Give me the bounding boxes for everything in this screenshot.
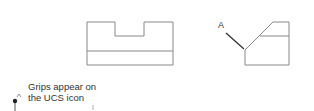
grip-dot-icon[interactable] <box>13 99 17 103</box>
caption-line-1: Grips appear on <box>28 81 96 92</box>
leader-line-a <box>226 33 244 49</box>
grips-caption: Grips appear on the UCS icon <box>28 81 96 103</box>
notched-block-view <box>87 22 173 65</box>
caption-line-2: the UCS icon <box>28 92 96 103</box>
label-a: A <box>218 20 224 30</box>
chamfered-block-view <box>245 22 289 65</box>
ucs-icon[interactable] <box>13 94 21 111</box>
